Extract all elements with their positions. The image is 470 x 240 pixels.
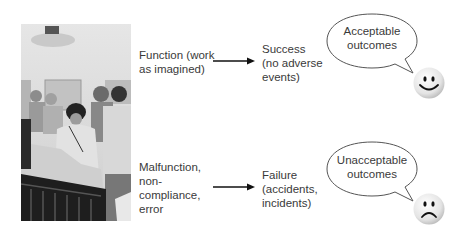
arrow-icon	[212, 56, 256, 66]
arrow-icon	[212, 182, 256, 192]
frown-face-icon	[412, 192, 446, 226]
cause-function: Function (work as imagined)	[139, 48, 214, 76]
cause-malfunction: Malfunction, non- compliance, error	[139, 160, 201, 216]
smiley-face-icon	[412, 66, 446, 100]
outcome-failure: Failure (accidents, incidents)	[262, 168, 318, 210]
bubble-text-acceptable: Acceptable outcomes	[330, 24, 414, 52]
clinical-photo	[21, 24, 131, 221]
bubble-text-unacceptable: Unacceptable outcomes	[330, 153, 414, 181]
outcome-success: Success (no adverse events)	[262, 42, 323, 84]
